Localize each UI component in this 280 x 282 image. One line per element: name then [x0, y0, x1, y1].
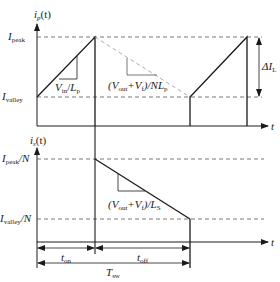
timing-annotations: ton toff Tsw	[38, 248, 189, 280]
bottom-fall-slope-label: (Vout+Vf)/LS	[108, 198, 161, 212]
bottom-t-axis-label: t	[271, 236, 275, 248]
top-peak-label: Ipeak	[7, 30, 25, 44]
delta-il-label: ΔIL	[261, 60, 276, 74]
top-t-axis-label: t	[271, 120, 275, 132]
primary-current-ramp-2	[190, 37, 247, 126]
top-y-axis-label: ip(t)	[34, 8, 51, 22]
bottom-y-axis-label: is(t)	[30, 134, 47, 148]
primary-current-plot: t ip(t) Ipeak Ivalley Vin/Lp (Vout+Vf)/N…	[1, 8, 276, 132]
rise-slope-label: Vin/Lp	[55, 81, 80, 95]
fall-slope-triangle	[127, 58, 157, 75]
primary-current-ramp-1	[37, 37, 95, 126]
top-fall-slope-label: (Vout+Vf)/NLp	[108, 79, 168, 93]
bottom-peak-label: Ipeak/N	[1, 152, 30, 166]
top-valley-label: Ivalley	[1, 90, 23, 104]
t-sw-label: Tsw	[106, 266, 121, 280]
flyback-waveform-diagram: t ip(t) Ipeak Ivalley Vin/Lp (Vout+Vf)/N…	[0, 0, 280, 282]
bottom-valley-label: Ivalley/N	[0, 212, 32, 226]
rise-slope-triangle	[59, 56, 77, 79]
